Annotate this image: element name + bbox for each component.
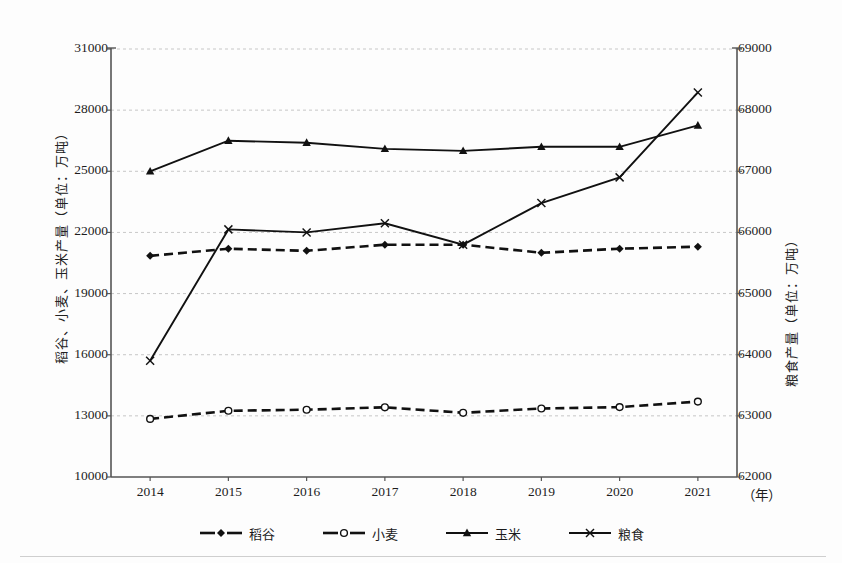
marker-circle — [460, 409, 467, 416]
legend-item-稻谷[interactable]: 稻谷 — [198, 524, 275, 543]
marker-circle — [147, 416, 154, 423]
marker-diamond — [303, 247, 311, 255]
marker-circle — [225, 407, 232, 414]
marker-diamond — [694, 243, 702, 251]
marker-diamond — [224, 245, 232, 253]
marker-circle — [616, 404, 623, 411]
series-小麦 — [147, 398, 702, 422]
legend-marker-icon — [444, 526, 490, 540]
legend-marker-icon — [198, 526, 244, 540]
legend-label: 小麦 — [372, 524, 398, 543]
legend-marker-icon — [321, 526, 367, 540]
marker-diamond — [217, 529, 225, 537]
marker-circle — [694, 398, 701, 405]
marker-diamond — [616, 245, 624, 253]
legend-item-小麦[interactable]: 小麦 — [321, 524, 398, 543]
marker-circle — [341, 530, 348, 537]
legend-label: 玉米 — [495, 524, 521, 543]
marker-diamond — [381, 241, 389, 249]
series-稻谷 — [146, 241, 702, 260]
legend-label: 稻谷 — [249, 524, 275, 543]
series-粮食 — [146, 88, 702, 364]
series-line — [150, 245, 698, 256]
legend-item-玉米[interactable]: 玉米 — [444, 524, 521, 543]
legend-item-粮食[interactable]: 粮食 — [567, 524, 644, 543]
legend-marker-icon — [567, 526, 613, 540]
marker-triangle — [694, 121, 702, 129]
bottom-divider — [20, 556, 826, 557]
chart-legend: 稻谷小麦玉米粮食 — [0, 519, 842, 547]
series-line — [150, 92, 698, 360]
marker-diamond — [537, 249, 545, 257]
marker-diamond — [146, 252, 154, 260]
marker-circle — [303, 406, 310, 413]
marker-circle — [538, 405, 545, 412]
plot-area — [0, 0, 842, 563]
legend-label: 粮食 — [618, 524, 644, 543]
chart-figure: 稻谷、小麦、玉米产量（单位：万吨） 粮食产量（单位：万吨） 3100028000… — [0, 0, 842, 563]
series-玉米 — [146, 121, 702, 174]
series-line — [150, 125, 698, 171]
marker-circle — [381, 404, 388, 411]
